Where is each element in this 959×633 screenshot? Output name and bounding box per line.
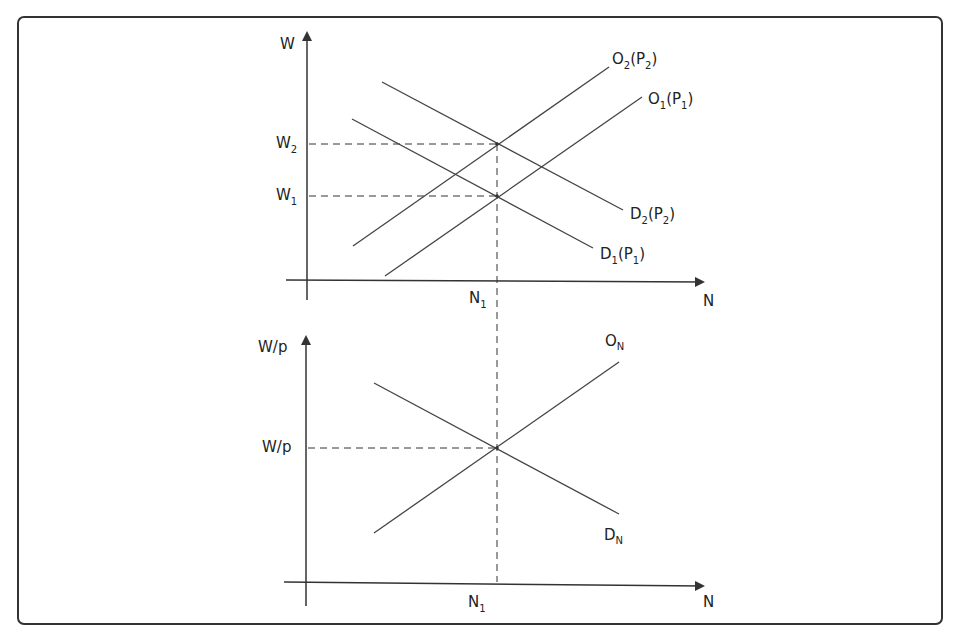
bottom-y-axis-label: W/p xyxy=(258,338,287,356)
real-equilibrium-point xyxy=(495,446,499,450)
top-x-axis-label: N xyxy=(703,292,714,310)
equilibrium-point-1 xyxy=(495,194,499,198)
top-panel: W N W2 W1 N1 O2(P2) O1(P1) D2(P2) D1(P1) xyxy=(276,33,714,582)
on-label: ON xyxy=(605,332,624,352)
top-n1-label: N1 xyxy=(469,289,487,310)
w2-label: W2 xyxy=(276,134,297,155)
bottom-x-axis-label: N xyxy=(703,593,714,611)
curve-d2 xyxy=(382,82,623,210)
w1-label: W1 xyxy=(276,186,297,207)
bottom-n1-label: N1 xyxy=(468,593,486,614)
o1-label: O1(P1) xyxy=(648,90,693,111)
curve-d1 xyxy=(352,119,593,248)
equilibrium-point-2 xyxy=(495,142,499,146)
top-x-axis xyxy=(286,280,703,282)
curve-o2 xyxy=(353,67,609,246)
dn-label: DN xyxy=(604,526,623,546)
o2-label: O2(P2) xyxy=(612,50,657,71)
real-wage-label: W/p xyxy=(262,438,291,456)
bottom-panel: W/p N W/p N1 ON DN xyxy=(258,332,714,614)
top-y-axis-label: W xyxy=(280,35,295,53)
labor-market-diagram: W N W2 W1 N1 O2(P2) O1(P1) D2(P2) D1(P1)… xyxy=(0,0,959,633)
d1-label: D1(P1) xyxy=(600,245,645,266)
bottom-x-axis xyxy=(284,582,703,586)
d2-label: D2(P2) xyxy=(630,205,675,226)
